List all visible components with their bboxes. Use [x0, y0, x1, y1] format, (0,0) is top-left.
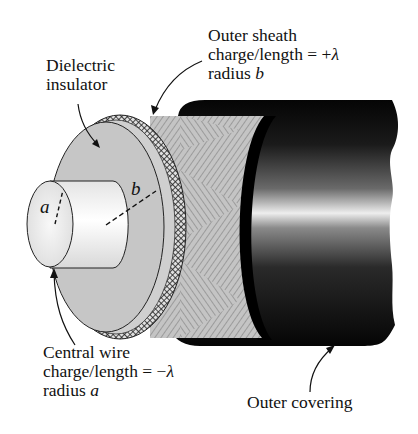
outer-sheath-charge-text: charge/length = + — [208, 44, 331, 64]
lambda-symbol: λ — [331, 44, 339, 64]
outer-sheath-line3: radius b — [208, 64, 339, 83]
dielectric-label: Dielectric insulator — [46, 56, 115, 94]
central-wire-line3: radius a — [43, 381, 174, 400]
outer-sheath-radius-text: radius — [208, 63, 255, 83]
lambda-symbol: λ — [166, 361, 174, 381]
outer-sheath-line1: Outer sheath — [208, 26, 339, 45]
radius-a-label: a — [40, 196, 50, 217]
central-wire-charge-text: charge/length = − — [43, 361, 166, 381]
outer-covering-line1: Outer covering — [247, 393, 352, 412]
central-wire-line2: charge/length = −λ — [43, 362, 174, 381]
central-wire-label: Central wire charge/length = −λ radius a — [43, 343, 174, 400]
outer-covering-arrow — [310, 348, 332, 392]
central-wire-radius-text: radius — [43, 380, 90, 400]
outer-sheath-line2: charge/length = +λ — [208, 45, 339, 64]
dielectric-line2: insulator — [46, 75, 115, 94]
outer-sheath-label: Outer sheath charge/length = +λ radius b — [208, 26, 339, 83]
dielectric-line1: Dielectric — [46, 56, 115, 75]
radius-a-symbol: a — [90, 380, 99, 400]
outer-covering-label: Outer covering — [247, 393, 352, 412]
radius-b-symbol: b — [255, 63, 264, 83]
central-wire-line1: Central wire — [43, 343, 174, 362]
central-wire — [27, 181, 128, 268]
radius-b-label: b — [131, 178, 141, 199]
